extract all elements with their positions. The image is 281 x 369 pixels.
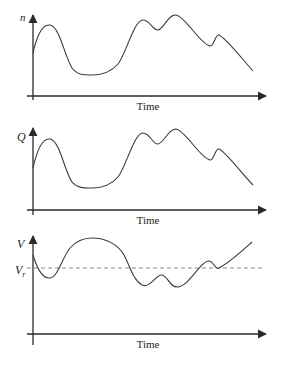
figure: n Time Q Time V Vr Time [0,0,281,369]
y-axis-label: n [20,11,26,23]
x-axis-label: Time [137,100,160,112]
y-axis-label: Q [17,130,26,144]
reference-label: Vr [15,263,26,279]
n-curve [33,15,253,75]
y-axis-label: V [17,237,26,251]
x-axis-label: Time [137,338,160,350]
q-curve [33,129,253,188]
chart-n: n Time [20,11,266,112]
x-axis-label: Time [137,214,160,226]
v-curve [33,238,252,287]
chart-v: V Vr Time [15,236,266,350]
chart-q: Q Time [17,128,266,226]
